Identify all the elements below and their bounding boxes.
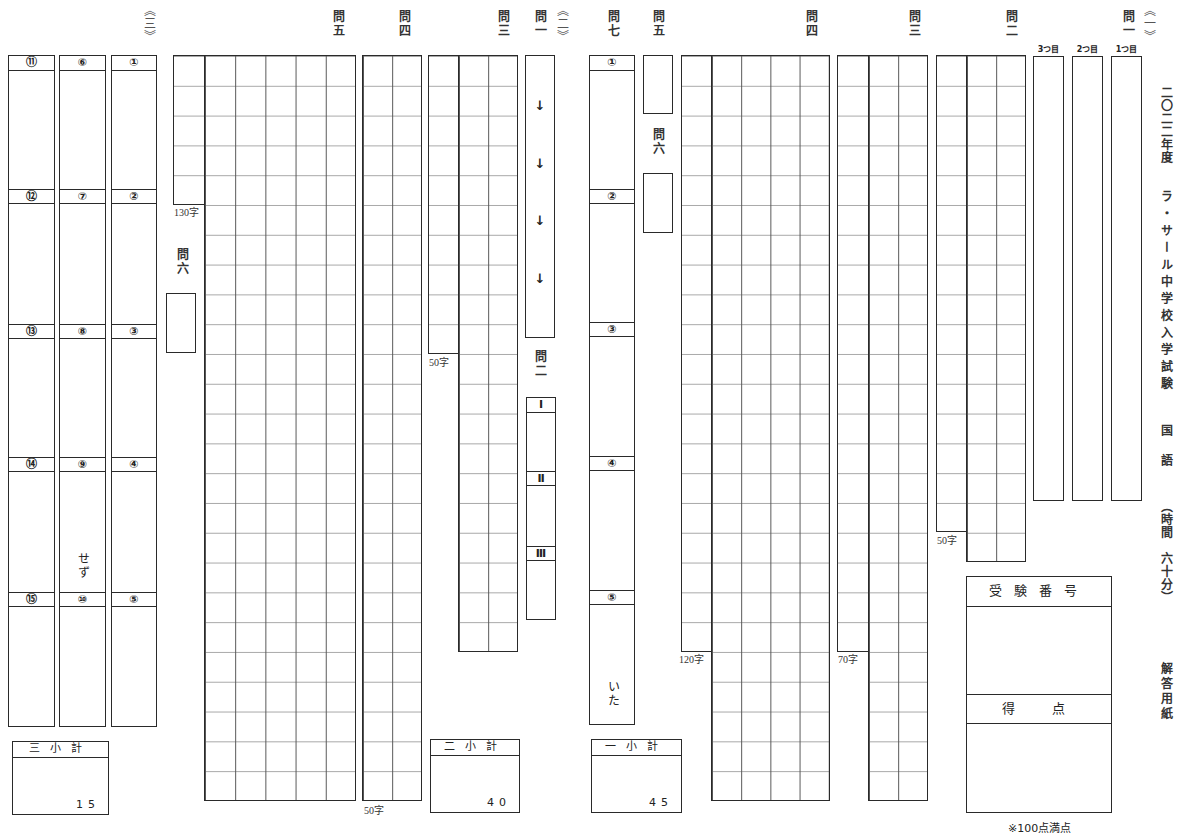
s1-q7-label: 問七 bbox=[606, 10, 618, 38]
s1-q1-second-answer-box[interactable] bbox=[1072, 56, 1103, 501]
section1-marker: 《一》 bbox=[1142, 4, 1154, 43]
s2-q2-label: 問二 bbox=[533, 350, 545, 378]
item-number: ① bbox=[590, 56, 634, 71]
down-arrow-icon: ↓ bbox=[526, 271, 554, 286]
s2-q6-answer-box[interactable] bbox=[166, 293, 196, 353]
s1-q5-label: 問五 bbox=[651, 10, 663, 38]
item-number: ⑧ bbox=[60, 324, 105, 339]
s2-q5-label: 問五 bbox=[331, 10, 343, 38]
item-number: ② bbox=[112, 189, 156, 204]
item-number: ③ bbox=[590, 322, 634, 337]
s2-q6-label: 問六 bbox=[175, 248, 187, 276]
s1-q1-label: 問一 bbox=[1121, 10, 1133, 38]
answer-sheet: 《三》 ① ② ③ ④ ⑤ ⑥ ⑦ ⑧ ⑨ せず ⑩ ⑪ ⑫ ⑬ ⑭ ⑮ 三小計… bbox=[0, 0, 1184, 835]
s2-q2-answer-column[interactable]: Ⅰ Ⅱ Ⅲ bbox=[526, 397, 556, 620]
item-number: ⑩ bbox=[60, 592, 105, 607]
s2-q4-char-limit: 50字 bbox=[364, 802, 384, 817]
item-number: ⑪ bbox=[9, 56, 54, 71]
item-number: Ⅱ bbox=[527, 471, 555, 486]
title-form: 解答用紙 bbox=[1159, 662, 1171, 722]
s2-q5-grid-first-column[interactable] bbox=[173, 55, 205, 205]
score-label: 得 点 bbox=[967, 694, 1111, 724]
exam-number-label: 受験番号 bbox=[967, 577, 1111, 607]
s2-q3-label: 問三 bbox=[496, 10, 508, 38]
s1-q1-box-label: 2つ目 bbox=[1072, 43, 1103, 54]
item-number: ⑫ bbox=[9, 189, 54, 204]
subtotal-points: 40 bbox=[487, 796, 511, 809]
item-number: ⑬ bbox=[9, 324, 54, 339]
s1-q7-answer-column[interactable]: ① ② ③ ④ ⑤ いた bbox=[589, 55, 635, 725]
s1-q4-grid[interactable] bbox=[711, 55, 830, 801]
s1-q1-box-label: 1つ目 bbox=[1111, 43, 1142, 54]
down-arrow-icon: ↓ bbox=[526, 213, 554, 228]
s2-q1-label: 問一 bbox=[533, 10, 545, 38]
subtotal-label: 三小計 bbox=[13, 742, 108, 758]
s1-q3-grid[interactable] bbox=[868, 55, 928, 801]
kanji-column-11-15[interactable]: ⑪ ⑫ ⑬ ⑭ ⑮ bbox=[8, 55, 55, 727]
s2-q1-order-box[interactable]: ↓ ↓ ↓ ↓ bbox=[525, 55, 555, 338]
item-number: ⑥ bbox=[60, 56, 105, 71]
s1-q3-char-limit: 70字 bbox=[838, 651, 858, 666]
section1-subtotal-box[interactable]: 一小計 45 bbox=[591, 739, 682, 813]
s1-q4-label: 問四 bbox=[804, 10, 816, 38]
item-number: ⑤ bbox=[112, 592, 156, 607]
s2-q3-grid-first-column[interactable] bbox=[428, 55, 459, 354]
s1-q6-label: 問六 bbox=[651, 128, 663, 156]
item-number: Ⅰ bbox=[527, 398, 555, 413]
s2-q3-char-limit: 50字 bbox=[429, 354, 449, 369]
s1-q3-grid-first-column[interactable] bbox=[837, 55, 869, 652]
subtotal-points: 45 bbox=[649, 796, 673, 809]
s1-q1-box-label: 3つ目 bbox=[1033, 43, 1064, 54]
s1-q6-answer-box[interactable] bbox=[643, 173, 673, 233]
kanji-column-1-5[interactable]: ① ② ③ ④ ⑤ bbox=[111, 55, 157, 727]
item-number: ⑨ bbox=[60, 457, 105, 472]
s1-q2-label: 問二 bbox=[1004, 10, 1016, 38]
item9-okurigana: せず bbox=[76, 552, 88, 580]
title-year: 二〇二二年度 bbox=[1159, 86, 1171, 164]
section2-subtotal-box[interactable]: 二小計 40 bbox=[430, 739, 520, 813]
item-number: ② bbox=[590, 189, 634, 204]
s1-q2-grid-first-column[interactable] bbox=[936, 55, 967, 532]
down-arrow-icon: ↓ bbox=[526, 98, 554, 113]
item-number: ① bbox=[112, 56, 156, 71]
s1-q4-char-limit: 120字 bbox=[679, 651, 704, 666]
title-subject: 国語 bbox=[1159, 424, 1171, 484]
section3-marker: 《三》 bbox=[142, 4, 154, 43]
item-number: ⑤ bbox=[590, 590, 634, 605]
s2-q5-char-limit: 130字 bbox=[174, 204, 199, 219]
score-field[interactable] bbox=[967, 725, 1111, 812]
s1-q4-grid-first-column[interactable] bbox=[681, 55, 712, 652]
s2-q5-grid[interactable] bbox=[204, 55, 356, 801]
s1-q5-answer-box[interactable] bbox=[643, 55, 673, 114]
s1-q2-grid[interactable] bbox=[966, 55, 1026, 562]
q7-item5-suffix: いた bbox=[606, 680, 618, 708]
item-number: Ⅲ bbox=[527, 546, 555, 561]
item-number: ③ bbox=[112, 324, 156, 339]
item-number: ⑭ bbox=[9, 457, 54, 472]
subtotal-points: 15 bbox=[76, 798, 100, 811]
item-number: ④ bbox=[590, 456, 634, 471]
kanji-column-6-10[interactable]: ⑥ ⑦ ⑧ ⑨ せず ⑩ bbox=[59, 55, 106, 727]
s2-q4-grid[interactable] bbox=[362, 55, 422, 801]
title-school-exam: ラ・サール中学校入学試験 bbox=[1159, 190, 1171, 394]
s2-q3-grid[interactable] bbox=[458, 55, 518, 652]
subtotal-label: 一小計 bbox=[592, 740, 681, 756]
full-score-note: ※100点満点 bbox=[1008, 819, 1071, 835]
exam-number-field[interactable] bbox=[967, 607, 1111, 695]
subtotal-label: 二小計 bbox=[431, 740, 519, 756]
s1-q1-first-answer-box[interactable] bbox=[1111, 56, 1142, 501]
item-number: ⑮ bbox=[9, 592, 54, 607]
down-arrow-icon: ↓ bbox=[526, 156, 554, 171]
s2-q4-label: 問四 bbox=[397, 10, 409, 38]
item-number: ④ bbox=[112, 457, 156, 472]
s1-q1-third-answer-box[interactable] bbox=[1033, 56, 1064, 501]
title-time-limit: （時間 六十分） bbox=[1159, 500, 1171, 604]
section3-subtotal-box[interactable]: 三小計 15 bbox=[12, 741, 109, 815]
s1-q3-label: 問三 bbox=[907, 10, 919, 38]
item-number: ⑦ bbox=[60, 189, 105, 204]
section2-marker: 《二》 bbox=[555, 4, 567, 43]
exam-number-score-box: 受験番号 得 点 bbox=[966, 576, 1112, 813]
s1-q2-char-limit: 50字 bbox=[937, 532, 957, 547]
